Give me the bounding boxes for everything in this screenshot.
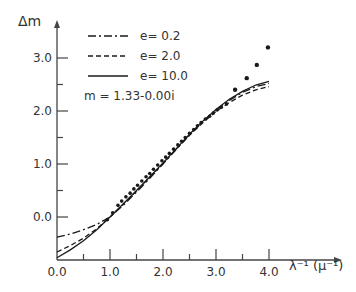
data-point: [199, 121, 203, 125]
x-tick-label: 0.0: [47, 265, 66, 279]
x-axis-label: λ⁻¹ (μ⁻¹): [289, 258, 343, 273]
data-point: [128, 191, 132, 195]
y-axis-label: Δm: [18, 13, 41, 29]
data-point: [215, 108, 219, 112]
data-point: [188, 131, 192, 135]
y-tick-label: 1.0: [33, 157, 52, 171]
data-point: [172, 147, 176, 151]
legend-label: e= 0.2: [140, 29, 180, 43]
legend-label: e= 10.0: [140, 69, 188, 83]
data-point: [111, 211, 115, 215]
data-point: [176, 143, 180, 147]
data-point: [208, 115, 212, 119]
data-point: [212, 111, 216, 115]
data-point: [136, 183, 140, 187]
data-point: [196, 124, 200, 128]
y-tick-label: 2.0: [33, 104, 52, 118]
legend-label: e= 2.0: [140, 49, 180, 63]
data-point: [180, 139, 184, 143]
data-point: [160, 159, 164, 163]
data-point: [152, 168, 156, 172]
data-point: [255, 63, 259, 67]
data-point: [156, 163, 160, 167]
data-point: [148, 172, 152, 176]
data-point: [220, 105, 224, 109]
data-point: [168, 152, 172, 156]
data-point: [183, 136, 187, 140]
legend-annotation: m = 1.33-0.00i: [84, 89, 174, 103]
x-tick-label: 4.0: [259, 265, 278, 279]
series-line-solid: [57, 81, 269, 257]
y-tick-label: 0.0: [33, 210, 52, 224]
data-point: [245, 76, 249, 80]
x-tick-label: 3.0: [206, 265, 225, 279]
y-tick-label: 3.0: [33, 51, 52, 65]
data-point: [164, 155, 168, 159]
data-point: [120, 199, 124, 203]
data-point: [233, 88, 237, 92]
y-axis-arrow-icon: [54, 20, 60, 28]
data-point: [124, 195, 128, 199]
data-point: [106, 218, 110, 222]
data-point: [132, 187, 136, 191]
x-tick-label: 1.0: [100, 265, 119, 279]
legend: e= 0.2e= 2.0e= 10.0m = 1.33-0.00i: [84, 29, 188, 103]
data-point: [204, 117, 208, 121]
data-point: [192, 128, 196, 132]
data-point: [266, 45, 270, 49]
data-point: [140, 179, 144, 183]
chart: 0.01.02.03.04.00.01.02.03.0 e= 0.2e= 2.0…: [0, 0, 356, 292]
data-point: [144, 175, 148, 179]
x-tick-label: 2.0: [153, 265, 172, 279]
data-point: [116, 204, 120, 208]
data-point: [225, 102, 229, 106]
